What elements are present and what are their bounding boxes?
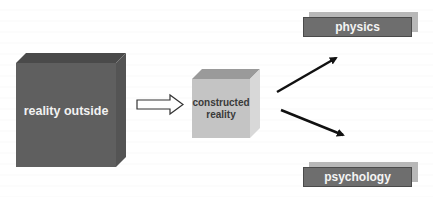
cube-side-face	[116, 53, 126, 167]
constructed-reality-label: constructed reality	[190, 97, 252, 120]
arrow-to-physics-icon	[277, 58, 336, 92]
arrow-to-psychology-icon	[281, 110, 343, 135]
psychology-box: psychology	[303, 167, 412, 187]
reality-outside-label: reality outside	[16, 104, 116, 118]
cube-top-face	[192, 69, 260, 79]
constructed-reality-label-line2: reality	[190, 109, 252, 121]
cube-top-face	[16, 53, 126, 63]
hollow-arrow-icon	[137, 95, 183, 114]
physics-box: physics	[303, 17, 412, 37]
constructed-reality-label-line1: constructed	[190, 97, 252, 109]
